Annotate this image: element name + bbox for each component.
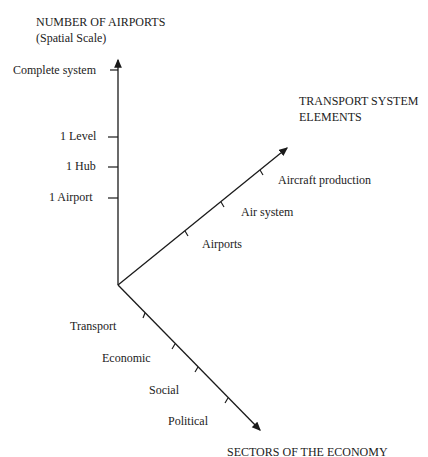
tick-transport: Transport — [70, 319, 116, 333]
tick-air-system: Air system — [241, 205, 293, 219]
tick-political: Political — [168, 414, 208, 428]
tick-1-airport: 1 Airport — [49, 190, 93, 204]
vertical-axis-title: NUMBER OF AIRPORTS — [36, 15, 165, 29]
tick-economic: Economic — [102, 351, 151, 365]
tick-1-level: 1 Level — [60, 129, 96, 143]
right-axis-title-2: ELEMENTS — [299, 110, 362, 124]
vertical-axis-subtitle: (Spatial Scale) — [36, 31, 106, 45]
tick-social: Social — [149, 383, 179, 397]
lower-axis-title: SECTORS OF THE ECONOMY — [227, 445, 388, 457]
right-axis-title: TRANSPORT SYSTEM — [299, 94, 418, 108]
tick-aircraft-production: Aircraft production — [278, 173, 371, 187]
tick-airports: Airports — [202, 237, 242, 251]
tick-complete-system: Complete system — [13, 63, 96, 77]
tick-1-hub: 1 Hub — [66, 159, 96, 173]
